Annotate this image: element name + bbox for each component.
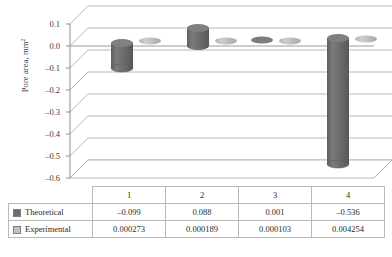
bar-experimental-2 (215, 38, 237, 45)
cell-experimental-1: 0.000273 (93, 221, 166, 238)
table-row: Theoretical –0.099 0.088 0.001 –0.536 (9, 204, 385, 221)
bar-experimental-3 (279, 38, 301, 45)
legend-item-experimental: Experimental (9, 221, 93, 238)
legend-label-theoretical: Theoretical (25, 208, 64, 218)
plot-canvas (0, 0, 392, 196)
category-header-1: 1 (93, 187, 166, 204)
y-axis-ticks (66, 24, 70, 178)
cell-experimental-3: 0.000103 (239, 221, 312, 238)
y-tick-label: 0.1 (26, 20, 60, 28)
legend-item-theoretical: Theoretical (9, 204, 93, 221)
cell-experimental-2: 0.000189 (166, 221, 239, 238)
y-tick-label: –0.2 (26, 86, 60, 94)
table-header-row: 1 2 3 4 (9, 187, 385, 204)
y-tick-label: –0.5 (26, 152, 60, 160)
chart-figure: 0.1 0.0 –0.1 –0.2 –0.3 –0.4 –0.5 –0.6 Po… (0, 0, 392, 257)
plot-area: 0.1 0.0 –0.1 –0.2 –0.3 –0.4 –0.5 –0.6 Po… (0, 0, 392, 196)
category-header-4: 4 (312, 187, 385, 204)
bar-theoretical-4 (327, 34, 349, 168)
data-table: 1 2 3 4 Theoretical –0.099 0.088 0.001 –… (8, 186, 385, 238)
table-corner-cell (9, 187, 93, 204)
category-header-2: 2 (166, 187, 239, 204)
cell-theoretical-1: –0.099 (93, 204, 166, 221)
y-tick-label: –0.3 (26, 108, 60, 116)
category-header-3: 3 (239, 187, 312, 204)
legend-swatch-icon (13, 226, 21, 234)
cell-theoretical-3: 0.001 (239, 204, 312, 221)
bar-experimental-4 (355, 36, 377, 43)
bar-experimental-1 (139, 38, 161, 45)
y-tick-label: 0.0 (26, 42, 60, 50)
bar-theoretical-3 (251, 36, 273, 43)
y-tick-label: –0.4 (26, 130, 60, 138)
y-axis-title-text: Pore area, mm (20, 42, 30, 93)
depth-connectors (70, 6, 88, 178)
bar-theoretical-1 (111, 39, 133, 72)
y-axis-title-exponent: 2 (20, 39, 26, 42)
y-tick-label: –0.1 (26, 64, 60, 72)
cell-experimental-4: 0.004254 (312, 221, 385, 238)
legend-swatch-icon (13, 209, 21, 217)
y-tick-label: –0.6 (26, 174, 60, 182)
legend-label-experimental: Experimental (25, 225, 71, 235)
y-axis-title: Pore area, mm2 (20, 20, 31, 110)
cell-theoretical-2: 0.088 (166, 204, 239, 221)
cell-theoretical-4: –0.536 (312, 204, 385, 221)
bar-theoretical-2 (187, 24, 209, 50)
table-row: Experimental 0.000273 0.000189 0.000103 … (9, 221, 385, 238)
